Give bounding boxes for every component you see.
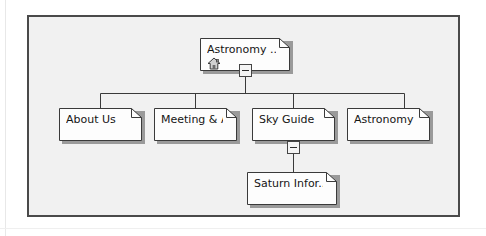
node-astronomy-sub[interactable]: Astronomy ...: [347, 108, 430, 141]
node-sky-guide[interactable]: Sky Guide: [252, 108, 335, 141]
node-meeting[interactable]: Meeting & A...: [154, 108, 237, 141]
node-label: Saturn Infor...: [254, 177, 323, 190]
node-label: Astronomy ...: [354, 113, 416, 126]
node-label: Sky Guide: [259, 113, 321, 126]
sitemap-panel: Astronomy ... About Us Meeti: [27, 15, 460, 217]
node-body: About Us: [59, 108, 142, 141]
collapse-toggle-root[interactable]: [239, 64, 252, 77]
node-root[interactable]: Astronomy ...: [200, 38, 290, 71]
node-body: Saturn Infor...: [247, 172, 337, 205]
node-body: Meeting & A...: [154, 108, 237, 141]
node-label: About Us: [66, 113, 128, 126]
node-label: Astronomy ...: [207, 43, 276, 56]
node-body: Astronomy ...: [347, 108, 430, 141]
collapse-toggle-sky-guide[interactable]: [287, 141, 300, 154]
node-saturn[interactable]: Saturn Infor...: [247, 172, 337, 205]
node-label: Meeting & A...: [161, 113, 223, 126]
node-about-us[interactable]: About Us: [59, 108, 142, 141]
node-body: Sky Guide: [252, 108, 335, 141]
page-guide-line-left: [5, 0, 6, 236]
page-guide-line-bottom: [0, 228, 486, 229]
home-icon: [207, 57, 221, 70]
